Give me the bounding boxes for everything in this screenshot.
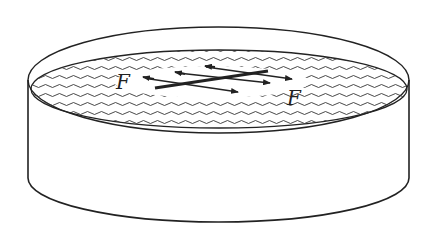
force-label-left: F: [116, 72, 130, 92]
force-label-right: F: [287, 88, 301, 108]
diagram-canvas: F F: [0, 0, 437, 231]
dish-illustration: [0, 0, 437, 231]
arrow-upper-left: [205, 66, 215, 67]
